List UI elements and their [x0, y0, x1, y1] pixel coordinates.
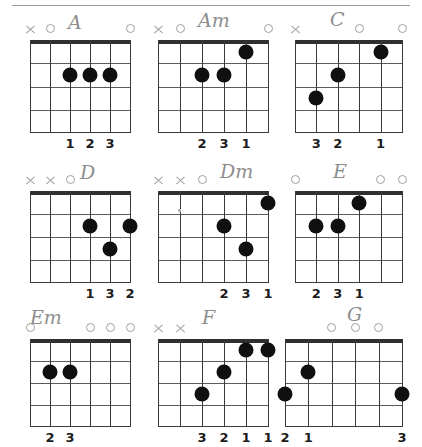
string-line: [130, 339, 131, 427]
muted-string-icon: [152, 174, 164, 186]
nut: [285, 339, 402, 344]
finger-dot: [195, 67, 210, 82]
nut: [30, 191, 130, 196]
finger-number: 2: [219, 430, 228, 446]
finger-number: 3: [197, 430, 206, 446]
fret-line: [295, 63, 402, 64]
string-line: [158, 191, 159, 283]
finger-dot: [217, 218, 232, 233]
string-line: [224, 339, 225, 427]
string-line: [30, 40, 31, 133]
string-line: [110, 40, 111, 133]
finger-dot: [103, 241, 118, 256]
fret-line: [295, 132, 402, 133]
open-string-icon: [262, 23, 274, 35]
finger-number: 2: [219, 286, 228, 302]
string-line: [180, 191, 181, 283]
string-line: [268, 40, 269, 133]
fret-line: [158, 383, 268, 384]
string-line: [180, 339, 181, 427]
muted-string-icon: [152, 322, 164, 334]
string-line: [90, 191, 91, 283]
fretboard: [30, 191, 130, 283]
fret-line: [30, 110, 130, 111]
string-line: [308, 339, 309, 427]
finger-numbers: 3211: [140, 430, 285, 446]
nut: [295, 191, 402, 196]
finger-number: 1: [85, 286, 94, 302]
finger-dot: [352, 195, 367, 210]
fret-line: [285, 361, 402, 362]
fret-line: [158, 237, 268, 238]
finger-numbers: 231: [140, 136, 285, 152]
muted-string-icon: [44, 174, 56, 186]
string-line: [30, 339, 31, 427]
open-string-icon: [84, 322, 96, 334]
page-top-rule: [12, 5, 410, 6]
finger-dot: [103, 67, 118, 82]
chord-diagram-am: Am231: [140, 8, 285, 157]
fret-line: [158, 132, 268, 133]
chord-diagram-dm: Dm231: [140, 157, 285, 305]
finger-dot: [373, 44, 388, 59]
string-line: [402, 40, 403, 133]
muted-string-icon: [24, 174, 36, 186]
fret-line: [30, 405, 130, 406]
fret-line: [285, 426, 402, 427]
finger-dot: [43, 365, 58, 380]
fret-line: [158, 110, 268, 111]
string-line: [338, 191, 339, 283]
finger-dot: [217, 365, 232, 380]
string-line: [359, 40, 360, 133]
fret-line: [158, 405, 268, 406]
finger-number: 2: [45, 430, 54, 446]
fret-line: [30, 214, 130, 215]
string-line: [70, 40, 71, 133]
string-line: [50, 191, 51, 283]
open-string-icon: [373, 322, 385, 334]
open-string-icon: [289, 174, 301, 186]
finger-number: 2: [197, 136, 206, 152]
fret-line: [30, 426, 130, 427]
finger-dot: [261, 195, 276, 210]
open-string-icon: [124, 322, 136, 334]
nut: [30, 339, 130, 344]
fretboard: [30, 40, 130, 133]
string-line: [316, 191, 317, 283]
finger-numbers: 231: [140, 286, 285, 302]
open-string-icon: [64, 174, 76, 186]
open-string-icon: [124, 23, 136, 35]
finger-dot: [217, 67, 232, 82]
chord-diagram-d: D132: [0, 157, 140, 305]
fret-line: [158, 63, 268, 64]
finger-numbers: 132: [0, 286, 140, 302]
finger-dot: [239, 343, 254, 358]
chord-grid: A123Am231C321D132Dm231E231Em23F3211G213: [0, 8, 422, 447]
open-string-icon: [24, 322, 36, 334]
fret-line: [295, 237, 402, 238]
string-line: [50, 40, 51, 133]
open-string-icon: [396, 174, 408, 186]
fretboard: [158, 191, 268, 283]
muted-string-icon: [289, 23, 301, 35]
string-line: [90, 339, 91, 427]
fret-line: [295, 282, 402, 283]
string-line: [285, 339, 286, 427]
chord-sheet: A123Am231C321D132Dm231E231Em23F3211G213: [0, 0, 422, 447]
string-line: [332, 339, 333, 427]
string-markers: [0, 23, 140, 37]
string-markers: [0, 322, 140, 336]
finger-number: 2: [280, 430, 289, 446]
finger-numbers: 231: [285, 286, 422, 302]
string-line: [90, 40, 91, 133]
string-markers: [140, 23, 285, 37]
string-line: [379, 339, 380, 427]
string-line: [30, 191, 31, 283]
string-line: [202, 40, 203, 133]
finger-dot: [123, 218, 138, 233]
chord-diagram-g: G213: [285, 305, 422, 447]
string-line: [110, 191, 111, 283]
scan-speck: [178, 209, 181, 212]
finger-numbers: 23: [0, 430, 140, 446]
open-string-icon: [104, 322, 116, 334]
